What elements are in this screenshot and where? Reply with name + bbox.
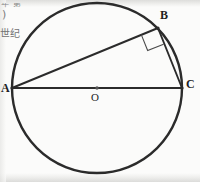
vertex-label-o: O (91, 92, 99, 103)
margin-text-parenthesis: ) (2, 8, 6, 21)
vertex-dot-b (156, 26, 159, 29)
segment-ab-chord (12, 28, 158, 88)
vertex-dot-c (180, 86, 183, 89)
vertex-dot-a (10, 86, 13, 89)
vertex-label-c: C (186, 78, 195, 90)
circle-geometry-figure (0, 0, 200, 182)
center-point-dot (95, 86, 98, 89)
right-angle-marker-at-b (141, 35, 163, 51)
segment-bc-chord (158, 28, 182, 88)
diagram-page: 年 第 ) 世纪 A B C O (0, 0, 200, 182)
vertex-label-b: B (160, 9, 168, 21)
vertex-label-a: A (1, 82, 10, 94)
margin-text-century: 世纪 (0, 25, 19, 40)
